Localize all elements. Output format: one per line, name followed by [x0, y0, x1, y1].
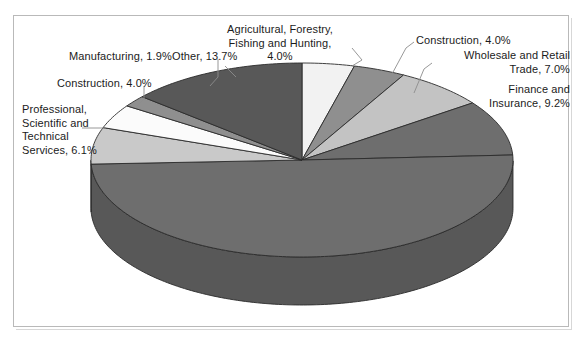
leader-line-construction-right — [392, 42, 414, 74]
slice-label-finance-insurance: Finance and Insurance, 9.2% — [440, 83, 570, 110]
slice-label-construction-right: Construction, 4.0% — [416, 34, 536, 48]
slice-label-wholesale-retail: Wholesale and Retail Trade, 7.0% — [418, 49, 570, 76]
slice-label-other: Other, 13.7% — [172, 50, 252, 64]
slice-label-professional-services: Professional, Scientific and Technical S… — [22, 103, 114, 157]
slice-label-construction-left: Construction, 4.0% — [57, 77, 177, 91]
pie-chart-figure: Agricultural, Forestry, Fishing and Hunt… — [0, 0, 586, 347]
